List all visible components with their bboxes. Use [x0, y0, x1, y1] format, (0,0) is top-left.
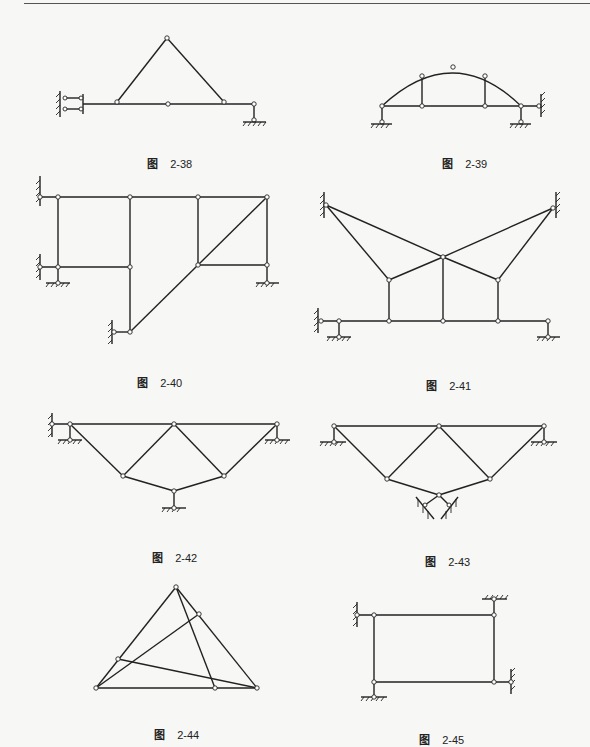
caption-2-38: 图2-38 — [141, 143, 192, 171]
caption-number: 2-42 — [175, 552, 197, 564]
caption-2-45: 图2-45 — [413, 719, 464, 747]
caption-prefix: 图 — [147, 158, 158, 171]
caption-prefix: 图 — [137, 377, 148, 390]
caption-2-41: 图2-41 — [420, 365, 471, 393]
caption-number: 2-44 — [177, 729, 199, 741]
caption-2-43: 图2-43 — [419, 541, 470, 569]
caption-number: 2-41 — [449, 380, 471, 392]
caption-number: 2-40 — [160, 377, 182, 389]
figure-2-41 — [314, 192, 560, 341]
caption-prefix: 图 — [426, 380, 437, 393]
caption-prefix: 图 — [419, 734, 430, 747]
caption-number: 2-45 — [442, 734, 464, 746]
caption-prefix: 图 — [442, 158, 453, 171]
caption-number: 2-43 — [448, 556, 470, 568]
caption-prefix: 图 — [152, 552, 163, 565]
figure-2-42 — [48, 413, 290, 512]
figure-2-45 — [353, 595, 515, 701]
caption-2-40: 图2-40 — [131, 362, 182, 390]
caption-prefix: 图 — [425, 556, 436, 569]
caption-2-42: 图2-42 — [146, 537, 197, 565]
caption-2-39: 图2-39 — [436, 143, 487, 171]
figure-2-40 — [36, 176, 279, 344]
caption-prefix: 图 — [154, 729, 165, 742]
figure-2-43 — [320, 424, 557, 519]
figure-2-39 — [371, 65, 545, 128]
caption-2-44: 图2-44 — [148, 714, 199, 742]
figure-2-44 — [94, 585, 259, 690]
caption-number: 2-39 — [465, 158, 487, 170]
caption-number: 2-38 — [170, 158, 192, 170]
figure-2-38 — [56, 36, 266, 126]
